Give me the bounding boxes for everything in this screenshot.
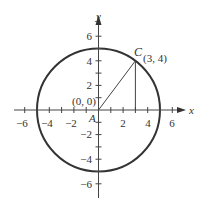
- point-a-label: A: [88, 112, 96, 124]
- y-tick-label: −6: [80, 178, 92, 190]
- point-c-coord: (3, 4): [143, 52, 167, 65]
- x-tick-label: 6: [169, 117, 175, 129]
- y-tick-label: 4: [87, 55, 93, 67]
- x-tick-label: −4: [41, 117, 53, 129]
- segment-ac: [99, 61, 136, 110]
- x-tick-label: 2: [120, 117, 126, 129]
- x-axis-label: x: [188, 104, 194, 116]
- y-tick-label: 6: [87, 30, 93, 42]
- y-tick-label: −4: [80, 153, 92, 165]
- x-axis-arrow-icon: [177, 107, 186, 113]
- x-tick-label: −2: [65, 117, 77, 129]
- point-c-label: C: [134, 45, 143, 59]
- x-tick-label: 4: [145, 117, 151, 129]
- point-a-coord: (0, 0): [72, 95, 96, 108]
- x-tick-label: −6: [16, 117, 28, 129]
- y-tick-label: −2: [80, 128, 92, 140]
- y-tick-label: 2: [87, 79, 93, 91]
- coordinate-diagram: x y −6 −4 −2 2 4: [0, 0, 206, 210]
- y-axis-label: y: [95, 10, 101, 22]
